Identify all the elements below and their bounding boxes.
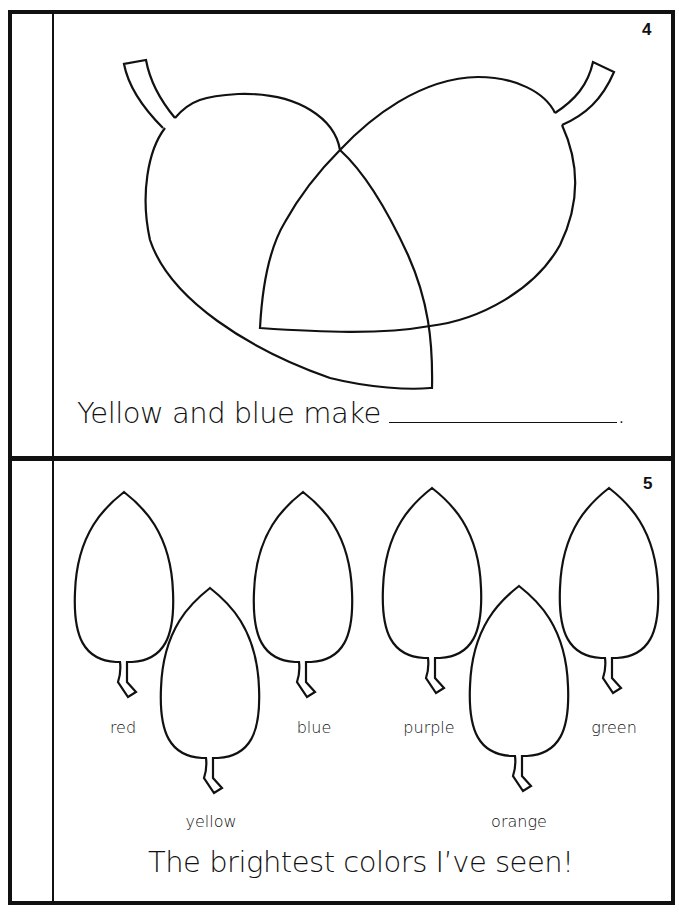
leaf-label-green: green (591, 718, 637, 737)
leaf-red-icon (75, 492, 173, 697)
leaf-label-red: red (110, 718, 136, 737)
leaf-label-yellow: yellow (185, 812, 236, 831)
leaf-label-orange: orange (491, 812, 547, 831)
leaf-purple-icon (383, 488, 481, 693)
colorable-leaves (0, 0, 679, 913)
page5-caption: The brightest colors I’ve seen! (148, 845, 573, 879)
leaf-label-blue: blue (297, 718, 332, 737)
leaf-green-icon (560, 488, 658, 693)
leaf-blue-icon (254, 492, 352, 697)
leaf-orange-icon (470, 586, 568, 791)
leaf-label-purple: purple (403, 718, 454, 737)
leaf-yellow-icon (161, 588, 259, 793)
